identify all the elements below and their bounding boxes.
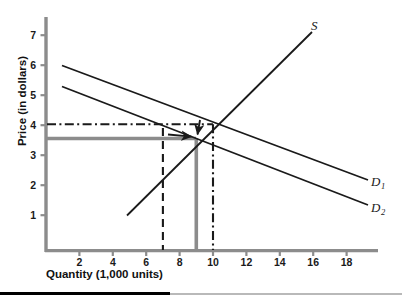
demand2-curve-label: D 2	[370, 200, 386, 217]
supply-curve-label: S	[311, 18, 318, 33]
label-S: S	[311, 18, 318, 33]
footer-rule-light	[170, 293, 402, 295]
y-tick-5: 5	[30, 89, 36, 101]
x-tick-10: 10	[207, 256, 219, 268]
curve-demand-1	[62, 66, 368, 181]
y-tick-7: 7	[30, 29, 36, 41]
x-tick-4: 4	[110, 256, 116, 268]
original-equilibrium-guides	[47, 124, 213, 250]
x-tick-14: 14	[274, 256, 286, 268]
x-tick-8: 8	[177, 256, 183, 268]
y-tick-3: 3	[30, 149, 36, 161]
x-tick-6: 6	[143, 256, 149, 268]
curve-demand-2	[62, 87, 368, 206]
demand1-curve-label: D 1	[370, 174, 385, 191]
x-tick-12: 12	[241, 256, 253, 268]
figure-canvas: Price (in dollars) Quantity (1,000 units…	[0, 0, 402, 301]
x-axis-tick-labels: 2 4 6 8 10 12 14 16 18	[76, 256, 352, 268]
new-equilibrium-guides	[47, 139, 196, 251]
axis-lines	[45, 17, 378, 252]
x-tick-2: 2	[76, 256, 82, 268]
x-tick-16: 16	[307, 256, 319, 268]
label-D2: D	[370, 200, 381, 215]
x-axis-title: Quantity (1,000 units)	[46, 268, 163, 280]
y-axis-title: Price (in dollars)	[16, 31, 28, 171]
price-shift-arrow	[198, 120, 201, 135]
label-D1-subscript: 1	[381, 181, 385, 191]
y-tick-1: 1	[30, 209, 36, 221]
label-D1: D	[370, 174, 381, 189]
label-D2-subscript: 2	[381, 207, 386, 217]
y-axis-tick-labels: 7 6 5 4 3 2 1	[30, 29, 36, 221]
footer-rule-dark	[0, 292, 170, 295]
y-tick-4: 4	[30, 119, 36, 131]
y-tick-6: 6	[30, 59, 36, 71]
y-tick-2: 2	[30, 179, 36, 191]
supply-demand-chart: 7 6 5 4 3 2 1 2 4 6 8 10 12	[0, 0, 402, 301]
x-tick-18: 18	[341, 256, 353, 268]
